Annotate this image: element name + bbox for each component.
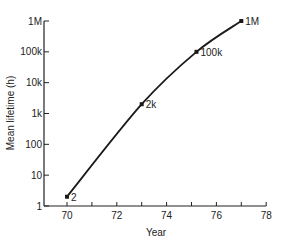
x-tick-label: 74 bbox=[161, 210, 173, 221]
data-point-marker bbox=[239, 19, 243, 23]
y-tick-label: 1k bbox=[31, 108, 43, 119]
data-point-label: 2 bbox=[71, 192, 77, 203]
y-tick-label: 10 bbox=[31, 170, 43, 181]
data-point-label: 100k bbox=[200, 47, 223, 58]
x-tick-label: 70 bbox=[61, 210, 73, 221]
x-axis-ticks: 7072747678 bbox=[61, 202, 272, 221]
data-points: 22k100k1M bbox=[65, 16, 259, 203]
y-tick-label: 100 bbox=[25, 139, 42, 150]
lifetime-chart: 1101001k10k100k1M 7072747678 22k100k1M Y… bbox=[0, 0, 287, 243]
x-axis-title: Year bbox=[146, 227, 167, 238]
data-point-label: 2k bbox=[146, 99, 158, 110]
y-axis-title: Mean lifetime (h) bbox=[5, 76, 16, 150]
data-point-marker bbox=[194, 50, 198, 54]
y-axis-ticks: 1101001k10k100k1M bbox=[20, 16, 49, 212]
data-point-marker bbox=[65, 195, 69, 199]
x-tick-label: 76 bbox=[211, 210, 223, 221]
y-tick-label: 1M bbox=[28, 16, 42, 27]
axes bbox=[44, 21, 266, 206]
y-tick-label: 10k bbox=[26, 77, 43, 88]
data-point-marker bbox=[140, 102, 144, 106]
y-tick-label: 1 bbox=[36, 201, 42, 212]
data-point-label: 1M bbox=[245, 16, 259, 27]
x-tick-label: 72 bbox=[111, 210, 123, 221]
y-tick-label: 100k bbox=[20, 46, 43, 57]
x-tick-label: 78 bbox=[261, 210, 273, 221]
